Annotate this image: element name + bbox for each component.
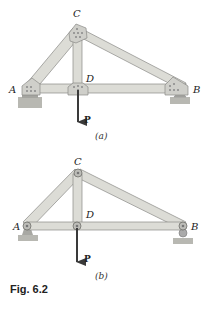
joint-label-c: C (74, 156, 82, 167)
load-label-p: P (84, 115, 91, 125)
panel-b: C D A B P (b) (12, 156, 198, 281)
joint-label-a: A (8, 84, 16, 95)
joint-label-d: D (85, 209, 94, 220)
joint-label-d: D (85, 73, 94, 84)
sublabel-a: (a) (95, 131, 108, 141)
figure-caption: Fig. 6.2 (10, 283, 48, 295)
truss-members-a (27, 28, 186, 93)
ground-support-b-left (18, 235, 38, 241)
ground-support-a-right (170, 97, 190, 104)
joint-label-b: B (192, 84, 200, 95)
panel-a: C D A B P (a) (8, 8, 200, 141)
truss-members-b (23, 169, 186, 230)
load-label-p: P (84, 254, 91, 264)
ground-support-b-right (173, 238, 193, 244)
truss-figure: C D A B P (a) C D (0, 0, 208, 311)
joint-label-b: B (190, 221, 198, 232)
ground-support-a-left (18, 97, 42, 108)
sublabel-b: (b) (95, 271, 108, 281)
joint-label-a: A (12, 221, 20, 232)
joint-label-c: C (73, 8, 81, 19)
